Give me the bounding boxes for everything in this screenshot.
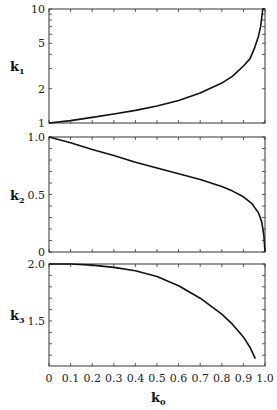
- x-axis-label: k0: [151, 390, 166, 407]
- y-tick-label: 0.5: [28, 189, 46, 202]
- plot-frame: [49, 137, 265, 252]
- x-tick-label: 0.3: [105, 372, 123, 385]
- x-tick-label: 0.7: [191, 372, 209, 385]
- panel-k1: 12510k1: [10, 3, 265, 130]
- chart-panels: 12510k100.51.0k21.52.0k3: [10, 3, 265, 366]
- y-axis-label-k2: k2: [10, 188, 25, 205]
- x-tick-label: 0.5: [148, 372, 166, 385]
- y-tick-label: 2: [38, 83, 45, 96]
- y-tick-label: 1.5: [28, 315, 46, 328]
- x-tick-label: 0: [46, 372, 53, 385]
- curve-k3: [49, 264, 255, 359]
- y-tick-label: 2.0: [28, 258, 46, 271]
- y-tick-label: 10: [31, 3, 45, 16]
- y-tick-label: 1: [38, 117, 45, 130]
- panel-k2: 00.51.0k2: [10, 131, 265, 259]
- y-tick-label: 1.0: [28, 131, 46, 144]
- x-tick-label: 0.8: [213, 372, 231, 385]
- x-tick-label: 0.2: [83, 372, 101, 385]
- y-axis-label-k3: k3: [10, 308, 25, 325]
- plot-frame: [49, 264, 265, 366]
- x-tick-label: 1.0: [256, 372, 274, 385]
- x-tick-label: 0.9: [235, 372, 253, 385]
- panel-k3: 1.52.0k3: [10, 258, 265, 366]
- y-axis-label-k1: k1: [10, 59, 25, 76]
- k-parameters-chart: 12510k100.51.0k21.52.0k3 00.10.20.30.40.…: [0, 0, 277, 410]
- curve-k1: [49, 9, 265, 123]
- y-tick-label: 5: [38, 37, 45, 50]
- x-tick-label: 0.6: [170, 372, 188, 385]
- x-tick-label: 0.1: [62, 372, 80, 385]
- x-tick-label: 0.4: [127, 372, 145, 385]
- curve-k2: [49, 137, 265, 252]
